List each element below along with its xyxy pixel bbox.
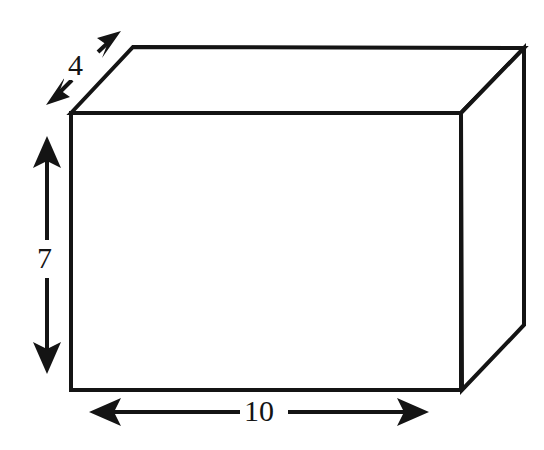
prism-top-face: [71, 47, 524, 113]
depth-arrowhead-lower-left: [46, 77, 70, 105]
depth-arrowhead-upper-right: [97, 31, 121, 58]
width-dimension-label: 10: [240, 396, 278, 426]
figure-canvas: 4 7 10: [0, 0, 544, 450]
depth-dimension-label: 4: [64, 50, 87, 80]
prism-front-face: [71, 113, 461, 390]
height-dimension-label: 7: [33, 243, 56, 273]
